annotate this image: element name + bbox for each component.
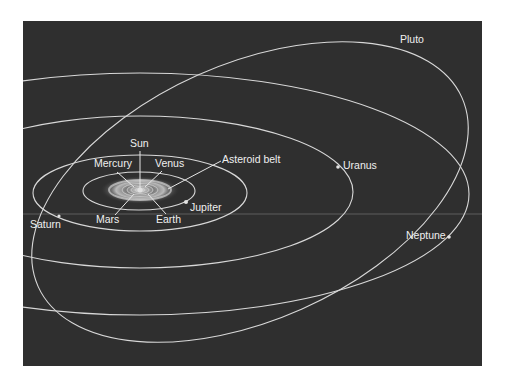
earth-label: Earth bbox=[156, 213, 181, 225]
uranus-label: Uranus bbox=[343, 159, 377, 171]
neptune-orbit bbox=[23, 73, 469, 315]
sun-icon bbox=[138, 188, 143, 193]
jupiter-label: Jupiter bbox=[190, 201, 222, 213]
asteroid-belt-label: Asteroid belt bbox=[222, 153, 280, 165]
neptune-label: Neptune bbox=[406, 229, 446, 241]
jupiter-planet-icon bbox=[184, 200, 188, 204]
mars-label: Mars bbox=[96, 213, 119, 225]
uranus-orbit bbox=[23, 116, 353, 268]
neptune-planet-icon bbox=[447, 235, 451, 239]
uranus-planet-icon bbox=[336, 165, 340, 169]
orbit-diagram-svg bbox=[23, 21, 482, 366]
sun-label: Sun bbox=[130, 137, 149, 149]
solar-system-diagram bbox=[23, 21, 482, 366]
pluto-label: Pluto bbox=[400, 33, 424, 45]
venus-label: Venus bbox=[155, 157, 184, 169]
saturn-label: Saturn bbox=[30, 218, 61, 230]
mercury-label: Mercury bbox=[94, 157, 132, 169]
